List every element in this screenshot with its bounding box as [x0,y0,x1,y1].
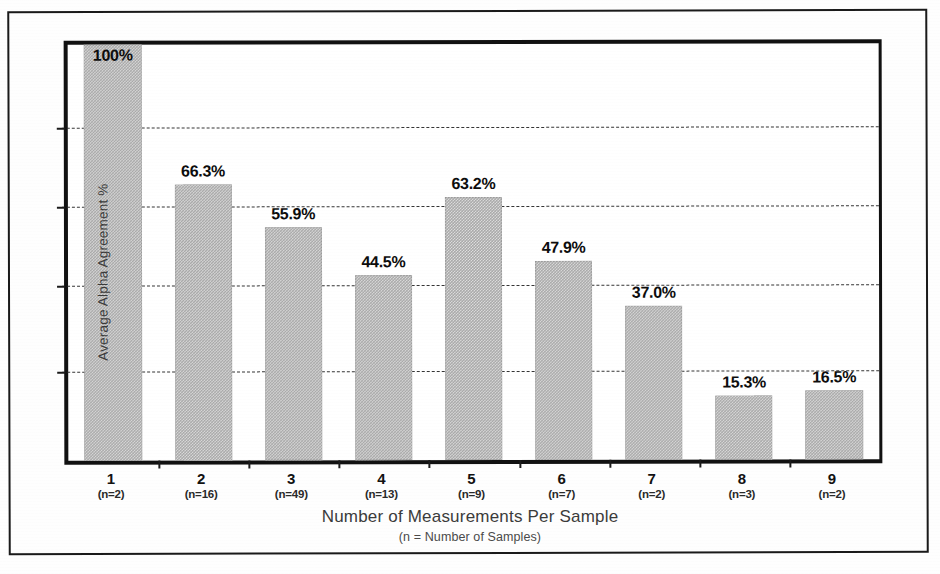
x-axis-label-sample-count: (n=13) [365,487,398,502]
chart-figure: 100%66.3%55.9%44.5%63.2%47.9%37.0%15.3%1… [0,0,940,574]
y-axis-tick [57,207,65,209]
y-axis-tick [57,286,65,288]
x-axis-tick [158,461,160,469]
bar-value-label: 47.9% [542,239,586,257]
x-axis-label-category: 7 [638,470,665,487]
x-axis-label-sample-count: (n=16) [185,487,218,502]
y-axis-tick [57,371,65,373]
bar-value-label: 100% [93,47,133,65]
x-axis-label: 3(n=49) [275,470,308,502]
bar[interactable] [535,261,593,460]
x-axis-label-category: 9 [819,470,846,487]
bar[interactable] [625,306,682,460]
bar-value-label: 44.5% [361,253,405,271]
x-axis-tick [339,460,341,468]
x-axis-label-category: 8 [728,470,755,487]
x-axis-tick [699,460,701,468]
x-axis-label-sample-count: (n=2) [819,487,846,502]
plot-area: 100%66.3%55.9%44.5%63.2%47.9%37.0%15.3%1… [64,39,883,464]
y-axis-tick [57,128,65,130]
y-axis-title: Average Alpha Agreement % [95,122,111,422]
bar-value-label: 15.3% [722,374,766,392]
x-axis-label-sample-count: (n=2) [98,487,125,502]
x-axis-label: 4(n=13) [365,470,398,502]
x-axis-tick [519,460,521,468]
x-axis-label-sample-count: (n=2) [638,487,665,502]
bar-value-label: 66.3% [181,163,225,181]
x-axis-label: 1(n=2) [98,470,125,502]
x-axis-tick [249,460,251,468]
bar[interactable] [355,275,413,460]
gridline [62,126,879,128]
x-axis-label: 9(n=2) [819,470,846,502]
bar-value-label: 63.2% [451,175,495,193]
bar-value-label: 16.5% [812,369,856,387]
x-axis-label: 2(n=16) [185,470,218,502]
x-axis-label-sample-count: (n=3) [728,487,755,502]
x-axis-label: 6(n=7) [548,470,575,502]
x-axis-label-category: 2 [185,470,218,487]
x-axis-label-category: 4 [365,470,398,487]
bar-value-label: 37.0% [632,284,676,302]
plot-inner: 100%66.3%55.9%44.5%63.2%47.9%37.0%15.3%1… [68,43,880,460]
x-axis-label-sample-count: (n=7) [548,487,575,502]
x-axis-title: Number of Measurements Per Sample (n = N… [0,506,940,546]
bar[interactable] [715,396,772,460]
x-axis-label-sample-count: (n=49) [275,487,308,502]
x-axis-label-category: 6 [548,470,575,487]
x-axis-tick [609,460,611,468]
bar-value-label: 55.9% [271,206,315,224]
x-axis-title-sub: (n = Number of Samples) [0,528,940,546]
bar[interactable] [445,197,503,460]
x-axis-title-main: Number of Measurements Per Sample [0,506,940,528]
x-axis-tick [789,459,791,467]
bar[interactable] [84,45,142,461]
x-axis-label-category: 3 [275,470,308,487]
bar[interactable] [174,185,232,461]
x-axis-label-sample-count: (n=9) [458,487,485,502]
x-axis-label: 8(n=3) [728,470,755,502]
x-axis-label: 5(n=9) [458,470,485,502]
x-axis-tick [429,460,431,468]
bar[interactable] [265,228,323,461]
x-axis-label-category: 1 [98,470,125,487]
bar[interactable] [806,391,863,460]
x-axis-label: 7(n=2) [638,470,665,502]
x-axis-label-category: 5 [458,470,485,487]
